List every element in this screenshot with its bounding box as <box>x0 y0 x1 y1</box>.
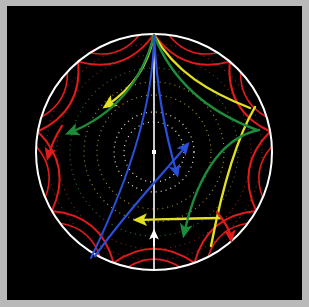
poincare-disk-diagram <box>7 6 302 300</box>
origin-marker <box>152 150 156 154</box>
figure-plate <box>7 6 302 300</box>
figure-container <box>0 0 309 307</box>
